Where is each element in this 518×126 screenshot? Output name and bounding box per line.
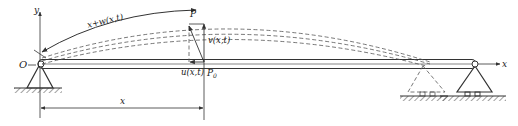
y-axis-label: y (33, 5, 40, 15)
x-axis-label: x (502, 59, 507, 69)
origin-label: O (19, 59, 27, 70)
arc-length-label: x+w(x,t) (86, 11, 124, 30)
point-p0-label: P0 (206, 68, 217, 79)
displacement-components: P v(x,t) u(x,t) P0 (181, 9, 230, 120)
arc-length-curve: x+w(x,t) (34, 10, 196, 58)
x-dimension-label: x (120, 96, 125, 106)
axial-displacement-label: u(x,t) (181, 67, 204, 77)
displaced-support-dashed (400, 66, 448, 101)
beam-diagram: y O x (0, 0, 518, 126)
right-roller-support (440, 61, 506, 101)
transverse-displacement-label: v(x,t) (208, 35, 230, 45)
x-dimension: x (41, 96, 203, 108)
deflected-beam-dashed (42, 29, 430, 66)
diagram-canvas: y O x (0, 0, 518, 126)
beam (38, 60, 476, 69)
x-axis: x (478, 59, 507, 69)
point-p-label: P (189, 9, 197, 19)
